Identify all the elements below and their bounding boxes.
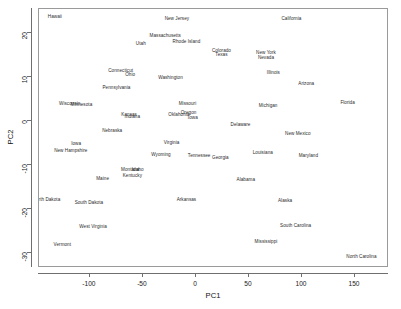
data-point-label: Maine <box>96 176 109 181</box>
data-point-label: West Virginia <box>79 224 107 229</box>
data-point-label: Iowa <box>71 140 81 145</box>
data-point-label: California <box>281 15 301 20</box>
data-point-label: Washington <box>158 75 183 80</box>
x-tick-mark <box>142 273 143 277</box>
data-point-label: Texas <box>215 52 227 57</box>
data-point-label: Virginia <box>164 140 180 145</box>
y-tick-label: 10 <box>21 76 28 83</box>
data-point-label: Arkansas <box>177 197 197 202</box>
y-tick-mark <box>27 208 31 209</box>
y-tick-mark <box>27 164 31 165</box>
y-tick-mark <box>27 32 31 33</box>
data-point-label: Ohio <box>125 72 135 77</box>
data-point-label: Massachusetts <box>150 32 181 37</box>
data-point-label: Nebraska <box>102 128 122 133</box>
data-point-label: Delaware <box>231 122 251 127</box>
pca-scatter-figure: HawaiiNew JerseyCaliforniaMassachusettsR… <box>0 0 401 309</box>
x-tick-label: -100 <box>82 280 95 287</box>
x-tick-mark <box>89 273 90 277</box>
data-point-label: Maryland <box>299 153 318 158</box>
data-point-label: Alabama <box>237 176 255 181</box>
data-point-label: South Dakota <box>75 199 103 204</box>
data-point-label: New Mexico <box>285 131 311 136</box>
data-point-label: Missouri <box>179 100 197 105</box>
y-tick-mark <box>27 252 31 253</box>
data-point-label: Michigan <box>259 102 278 107</box>
x-tick-mark <box>301 273 302 277</box>
y-tick-label: -30 <box>21 252 28 262</box>
x-axis-title: PC1 <box>206 291 221 300</box>
data-point-label: Florida <box>340 100 354 105</box>
x-tick-label: 100 <box>296 280 307 287</box>
data-point-label: Pennsylvania <box>102 85 130 90</box>
x-tick-mark <box>354 273 355 277</box>
x-tick-label: 150 <box>349 280 360 287</box>
x-tick-mark <box>248 273 249 277</box>
y-axis-title: PC2 <box>6 130 15 145</box>
y-tick-mark <box>27 120 31 121</box>
data-point-label: Louisiana <box>253 149 273 154</box>
data-point-label: New Jersey <box>165 15 190 20</box>
y-tick-mark <box>27 76 31 77</box>
data-point-label: Tennessee <box>188 153 211 158</box>
y-tick-label: -20 <box>21 208 28 218</box>
data-point-label: Hawaii <box>48 14 62 19</box>
data-point-label: Georgia <box>212 155 229 160</box>
data-point-label: Alaska <box>278 197 292 202</box>
y-tick-label: -10 <box>21 164 28 174</box>
data-point-label: North Dakota <box>38 197 60 202</box>
data-point-label: Arizona <box>298 81 314 86</box>
y-axis-line <box>31 8 32 267</box>
x-tick-mark <box>195 273 196 277</box>
data-point-label: Rhode Island <box>173 39 201 44</box>
x-axis-line <box>38 273 388 274</box>
y-tick-label: 0 <box>21 120 28 124</box>
data-point-label: New Hampshire <box>54 147 87 152</box>
y-tick-label: 20 <box>21 32 28 39</box>
x-tick-label: -50 <box>137 280 147 287</box>
data-point-label: Illinois <box>267 70 280 75</box>
data-point-label: Wyoming <box>151 152 170 157</box>
data-point-label: Kentucky <box>123 173 142 178</box>
data-point-label: Vermont <box>54 241 71 246</box>
data-point-label: Indiana <box>125 113 140 118</box>
plot-area: HawaiiNew JerseyCaliforniaMassachusettsR… <box>38 8 388 267</box>
data-point-label: Utah <box>136 40 146 45</box>
x-tick-label: 0 <box>193 280 197 287</box>
data-point-label: Iowa <box>188 114 198 119</box>
data-point-label: North Carolina <box>346 254 376 259</box>
data-point-label: Idaho <box>132 167 144 172</box>
data-point-label: South Carolina <box>280 222 311 227</box>
data-point-label: Mississippi <box>255 239 278 244</box>
data-point-label: Nevada <box>258 54 274 59</box>
data-point-label: Minnesota <box>71 102 93 107</box>
x-tick-label: 50 <box>244 280 251 287</box>
